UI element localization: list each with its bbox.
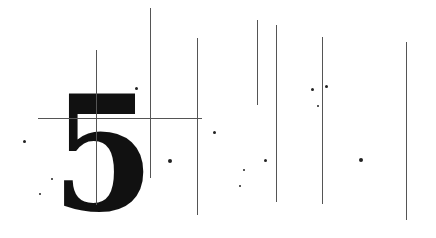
dot (213, 131, 216, 134)
dot (39, 193, 41, 195)
dot (239, 185, 241, 187)
vertical-line (257, 20, 258, 105)
dot (264, 159, 267, 162)
dot (135, 87, 138, 90)
vertical-line (276, 25, 277, 202)
vertical-line (406, 42, 407, 220)
vertical-line (197, 38, 198, 215)
dot (317, 105, 319, 107)
numeral-five: 5 (52, 74, 154, 234)
horizontal-line (38, 118, 202, 119)
dot (311, 88, 314, 91)
vertical-line (96, 50, 97, 205)
dot (23, 140, 26, 143)
dot (243, 169, 245, 171)
vertical-line (322, 37, 323, 204)
dot (359, 158, 363, 162)
dot (325, 85, 328, 88)
vertical-line (150, 8, 151, 178)
abstract-numeral-graphic: 5 (0, 0, 436, 238)
dot (51, 178, 53, 180)
dot (168, 159, 172, 163)
